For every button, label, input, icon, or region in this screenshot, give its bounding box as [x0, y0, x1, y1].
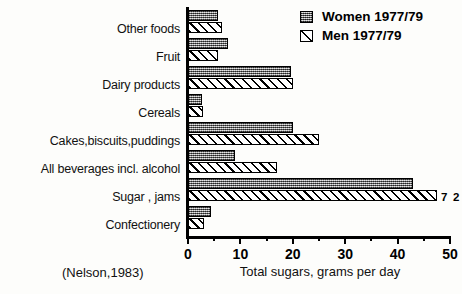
bar-men-other-foods [188, 22, 222, 33]
legend-item-men: Men 1977/79 [300, 27, 423, 44]
legend-label-men: Men 1977/79 [322, 28, 402, 43]
category-label-confectionery: Confectionery [0, 218, 180, 232]
men-hatch-swatch-icon [300, 30, 313, 42]
x-tick-major-10 [239, 236, 241, 244]
category-label-fruit: Fruit [0, 50, 180, 64]
x-tick-major-40 [397, 236, 399, 244]
bar-women-all-beverages [188, 150, 235, 161]
category-label-cakes-biscuits-puddings: Cakes,biscuits,puddings [0, 134, 180, 148]
x-tick-major-30 [344, 236, 346, 244]
bar-women-cereals [188, 94, 202, 105]
bar-men-confectionery [188, 218, 204, 229]
bar-women-sugar-jams [188, 178, 413, 189]
category-label-other-foods: Other foods [0, 22, 180, 36]
x-tick-label-0: 0 [184, 246, 192, 262]
category-label-all-beverages: All beverages incl. alcohol [0, 162, 180, 176]
bar-women-other-foods [188, 10, 218, 21]
x-tick-label-20: 20 [285, 246, 301, 262]
bar-value-annotation-sugar-jams-men: 7 2 [441, 191, 461, 203]
x-tick-minor-5 [213, 236, 215, 241]
bar-men-fruit [188, 50, 218, 61]
x-tick-minor-15 [266, 236, 268, 241]
bar-men-cakes-biscuits-puddings [188, 134, 319, 145]
x-tick-minor-35 [370, 236, 372, 241]
x-tick-major-20 [292, 236, 294, 244]
x-tick-minor-25 [318, 236, 320, 241]
bar-women-confectionery [188, 206, 211, 217]
category-label-cereals: Cereals [0, 106, 180, 120]
x-tick-label-10: 10 [233, 246, 249, 262]
x-tick-label-30: 30 [337, 246, 353, 262]
x-tick-label-50: 50 [442, 246, 458, 262]
x-tick-label-40: 40 [390, 246, 406, 262]
x-axis-title: Total sugars, grams per day [188, 264, 452, 279]
x-tick-major-0 [187, 236, 189, 244]
bar-men-dairy-products [188, 78, 293, 89]
legend-item-women: Women 1977/79 [300, 8, 423, 25]
category-label-dairy-products: Dairy products [0, 78, 180, 92]
women-stipple-swatch-icon [300, 11, 313, 23]
category-label-sugar-jams: Sugar , jams [0, 190, 180, 204]
legend-label-women: Women 1977/79 [322, 9, 423, 24]
bar-women-cakes-biscuits-puddings [188, 122, 293, 133]
x-tick-minor-45 [423, 236, 425, 241]
x-tick-major-50 [449, 236, 451, 244]
chart-legend: Women 1977/79 Men 1977/79 [300, 8, 423, 46]
bar-women-fruit [188, 38, 228, 49]
bar-men-all-beverages [188, 162, 277, 173]
bar-men-cereals [188, 106, 203, 117]
bar-men-sugar-jams [188, 190, 437, 201]
bar-women-dairy-products [188, 66, 291, 77]
source-citation: (Nelson,1983) [62, 265, 144, 280]
sugar-intake-bar-chart: Other foods Fruit Dairy products Cereals… [0, 0, 462, 294]
